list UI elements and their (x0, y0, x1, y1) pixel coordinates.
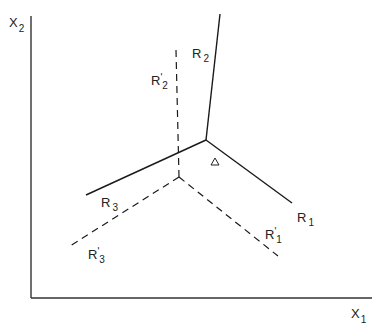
ray-r1 (206, 140, 292, 203)
label-r2: R2 (192, 46, 209, 64)
label-r3: R3 (101, 195, 118, 213)
ray-r2-prime (176, 50, 179, 177)
ray-r2 (206, 14, 220, 140)
label-r3-prime: R'3 (88, 246, 105, 265)
ray-r1-prime (179, 177, 278, 256)
triangle-marker-icon (211, 158, 219, 165)
solid-line-set (86, 14, 292, 203)
ray-r3 (86, 140, 206, 195)
label-r1: R1 (297, 210, 314, 228)
y-axis-label: X2 (9, 15, 25, 34)
label-r1-prime: R'1 (265, 226, 282, 245)
label-r2-prime: R'2 (151, 72, 168, 91)
dashed-line-set (70, 50, 278, 256)
ray-r3-prime (70, 177, 179, 246)
x-axis-label: X1 (351, 306, 367, 325)
phase-diagram: X2 X1 R1 R2 R3 R'1 R'2 R'3 (0, 0, 386, 329)
